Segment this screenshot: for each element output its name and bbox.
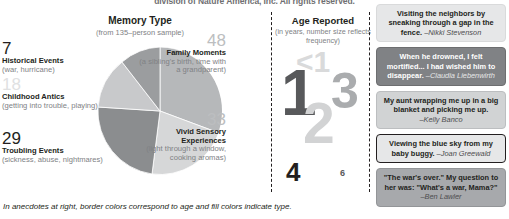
panel-divider-right <box>369 12 370 192</box>
pie-label-troubling-events: 29 Troubling Events (sickness, abuse, ni… <box>2 129 103 164</box>
anecdote-card: My aunt wrapping me up in a big blanket … <box>376 91 506 129</box>
anecdote-author: –Kelly Banco <box>419 115 462 124</box>
anecdotes-panel: Visiting the neighbors by sneaking throu… <box>376 4 506 212</box>
anecdote-text: "The war's over." My question to her was… <box>384 173 498 191</box>
age-value-4: 4 <box>286 159 300 185</box>
anecdote-author: –Nikki Stevenson <box>424 28 481 37</box>
anecdote-card: When he drowned, I felt mortified... I h… <box>376 47 506 85</box>
pie-label-family-moments: 48 Family Moments (a sibling's birth, ti… <box>134 31 226 75</box>
anecdote-card: Viewing the blue sky from my baby buggy.… <box>376 134 506 163</box>
pie-label-historical-desc: (war, hurricane) <box>2 66 64 75</box>
anecdote-text: My aunt wrapping me up in a big blanket … <box>384 96 499 114</box>
pie-label-family-desc: (a sibling's birth, time with a grandpar… <box>134 58 226 75</box>
age-value-3: 3 <box>331 66 359 116</box>
anecdote-card: Visiting the neighbors by sneaking throu… <box>376 4 506 42</box>
pie-label-childhood-antics: 18 Childhood Antics (getting into troubl… <box>2 75 98 110</box>
age-panel-title: Age Reported <box>276 15 370 26</box>
anecdote-author: –Ben Lawler <box>420 192 461 201</box>
figure-caption: In anecdotes at right, border colors cor… <box>3 202 292 211</box>
pie-label-historical-events: 7 Historical Events (war, hurricane) <box>2 39 64 74</box>
anecdote-author: –Joan Greewald <box>437 149 491 158</box>
panel-divider-left <box>271 12 272 192</box>
age-value-6: 6 <box>340 169 345 178</box>
age-value-2: 2 <box>303 95 335 152</box>
pie-label-sensory-desc: (light through a window, cooking aromas) <box>134 145 226 162</box>
age-panel-subtitle: (in years, number size reflects frequenc… <box>274 27 372 45</box>
pie-label-vivid-sensory: 33 Vivid Sensory Experiences (light thro… <box>134 110 226 162</box>
anecdote-author: –Claudia Liebenwirth <box>426 71 495 80</box>
age-reported-panel: Age Reported (in years, number size refl… <box>276 9 370 194</box>
pie-label-childhood-desc: (getting into trouble, playing) <box>2 102 98 111</box>
pie-label-troubling-desc: (sickness, abuse, nightmares) <box>2 156 103 165</box>
anecdote-card: "The war's over." My question to her was… <box>376 168 506 206</box>
pie-chart-title: Memory Type <box>55 15 225 26</box>
pie-label-sensory-name: Vivid Sensory Experiences <box>134 128 226 145</box>
memory-type-chart-panel: Memory Type (from 135–person sample) <box>0 9 272 194</box>
